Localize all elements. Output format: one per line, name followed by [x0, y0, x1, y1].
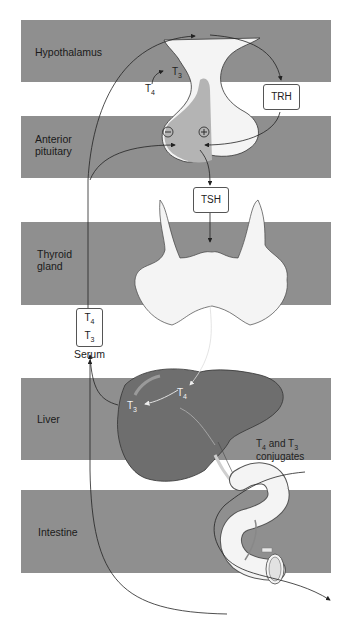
label-serum: Serum: [74, 348, 105, 360]
serum-t4-t3-box: T4 T3: [76, 308, 103, 347]
conjugates-label-line1: T4 and T3: [256, 438, 298, 451]
hypo-t4-label: T4: [145, 83, 155, 96]
thyroid-organ: [135, 200, 287, 325]
pituitary-organ: [162, 38, 260, 162]
trh-box: TRH: [263, 84, 300, 110]
serum-t3: T3: [77, 329, 102, 347]
conjugates-label-line2: conjugates: [256, 451, 304, 462]
tsh-box: TSH: [193, 187, 229, 213]
hypo-t3-label: T3: [172, 66, 182, 79]
serum-t4: T4: [77, 311, 102, 329]
